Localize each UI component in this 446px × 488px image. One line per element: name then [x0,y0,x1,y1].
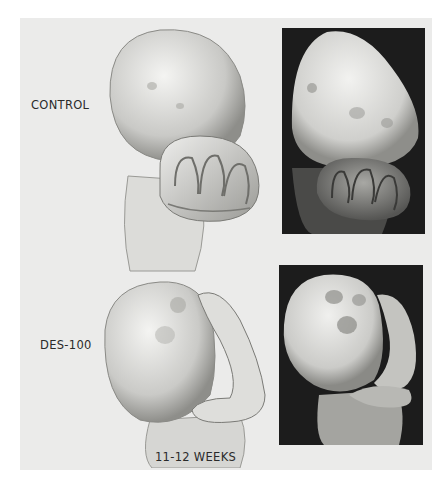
des-100-micrograph [279,265,423,445]
control-drawing [100,26,270,276]
row-label-control: CONTROL [31,98,89,112]
row-label-des-100: DES-100 [40,338,92,352]
control-micrograph [282,28,425,234]
age-label: 11-12 WEEKS [155,450,236,464]
des-100-drawing [100,280,270,468]
